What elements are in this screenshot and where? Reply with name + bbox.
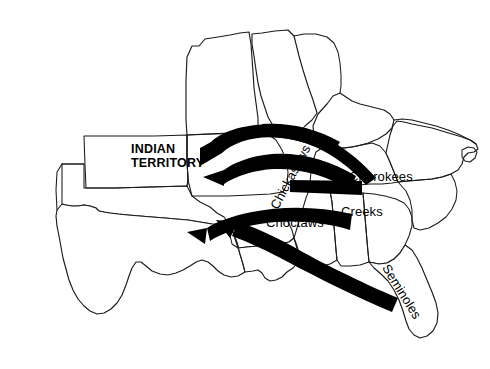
label-indian-territory-line2: TERRITORY [131, 157, 204, 171]
label-choctaws: Choctaws [266, 216, 324, 230]
label-indian-territory-line1: INDIAN [131, 143, 204, 157]
state-outlines [56, 30, 478, 338]
state-illinois [252, 30, 317, 134]
indian-removal-map: INDIAN TERRITORY Chickasaws Cherokees Ch… [0, 0, 490, 369]
label-cherokees: Cherokees [349, 170, 413, 184]
label-indian-territory: INDIAN TERRITORY [131, 143, 204, 170]
label-creeks: Creeks [341, 205, 383, 219]
texas-panhandle-line [56, 164, 62, 210]
state-iowa-minnesota [186, 32, 258, 135]
